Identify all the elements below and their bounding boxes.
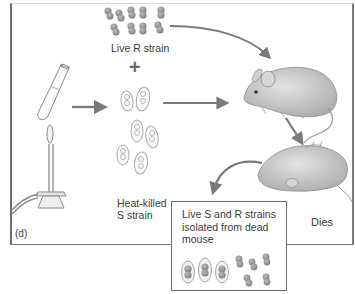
live-s-and-r-bacteria: [172, 202, 286, 290]
label-heat-killed-line1: Heat-killed: [117, 197, 167, 209]
arrow-mouse-to-dead-mouse: [286, 118, 300, 140]
arrow-r-to-mouse: [170, 26, 267, 55]
arrow-dead-mouse-to-result: [214, 162, 262, 189]
label-live-r-strain: Live R strain: [111, 42, 169, 54]
live-r-strain-cluster: [104, 6, 164, 35]
label-heat-killed-line2: S strain: [117, 209, 167, 221]
dead-mouse-illustration: [258, 141, 352, 202]
label-dies: Dies: [311, 216, 333, 228]
heat-killed-s-strain-cells: [117, 86, 160, 175]
live-mouse-illustration: [244, 67, 337, 143]
panel-label: (d): [15, 228, 27, 240]
bunsen-burner-icon: [12, 125, 66, 214]
test-tube-icon: [38, 63, 70, 119]
result-box: Live S and R strains isolated from dead …: [171, 201, 287, 291]
plus-sign: +: [129, 57, 141, 77]
label-heat-killed: Heat-killed S strain: [117, 197, 167, 221]
